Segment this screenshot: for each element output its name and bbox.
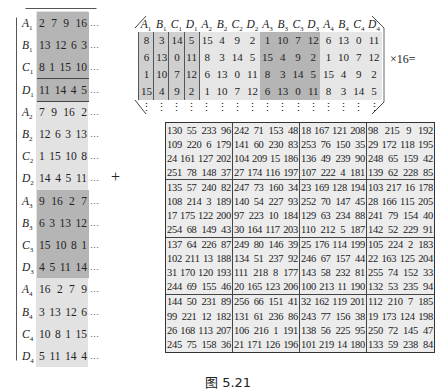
cell-value: 177 (283, 267, 298, 278)
ellipsis: … (90, 167, 99, 189)
cell-value: 91 (423, 224, 433, 235)
result-grid: 1305523396109220617924161127202251781483… (165, 122, 435, 353)
vertical-ellipsis: ⋮ (153, 100, 169, 118)
cell-value: 217 (386, 182, 401, 193)
column-label: A4 (320, 14, 336, 32)
cell-value: 12 (65, 301, 77, 323)
cell-value: 11 (60, 256, 71, 278)
cell-value: 1 (65, 323, 71, 345)
cell-value: 117 (265, 224, 279, 235)
cell-value: 6 (200, 66, 215, 83)
cell-value: 13 (39, 34, 51, 56)
matrix-row: C4108115… (16, 323, 108, 345)
cell-value: 129 (301, 210, 316, 221)
cell-value: 44 (355, 253, 365, 264)
cell-value: 193 (216, 267, 231, 278)
cell-value: 9 (39, 190, 45, 212)
cell-value: 196 (283, 339, 298, 350)
cell-value: 90 (355, 153, 365, 164)
row-values: 151081 (37, 234, 89, 256)
cell-value: 204 (418, 253, 433, 264)
cell-value: 187 (350, 224, 365, 235)
block-row: 9922112182 (167, 309, 231, 323)
matrix-column: D3122511⋮ (305, 14, 321, 118)
block-row: 2417915440 (368, 208, 433, 222)
cell-value: 182 (216, 311, 231, 322)
vertical-ellipsis: ⋮ (214, 100, 230, 118)
cell-value: 248 (368, 153, 383, 164)
cell-value: 192 (418, 125, 433, 136)
cell-value: 4 (55, 167, 61, 189)
matrix-row: D4511144… (16, 345, 108, 367)
cell-value: 132 (368, 281, 383, 292)
cell-value: 123 (265, 281, 280, 292)
matrix-row: B3631312… (16, 212, 108, 234)
matrix-row: D3451114… (16, 256, 108, 278)
cell-value: 114 (332, 239, 346, 250)
cell-value: 16 (51, 190, 63, 212)
cell-value: 111 (234, 267, 248, 278)
cell-value: 2 (408, 239, 413, 250)
block-row: 1355724082 (167, 180, 231, 194)
cell-value: 154 (403, 210, 418, 221)
cell-value: 120 (198, 267, 213, 278)
cell-value: 15 (49, 145, 61, 167)
cell-value: 0 (169, 49, 184, 66)
cell-value: 232 (335, 267, 350, 278)
cell-value: 128 (332, 182, 347, 193)
cell-value: 184 (283, 210, 298, 221)
cell-value: 31 (167, 267, 177, 278)
cell-value: 119 (332, 296, 346, 307)
cell-value: 73 (254, 182, 264, 193)
block-row: 10221113188 (167, 252, 231, 266)
result-block: 1052242183221631252042557415233132532359… (367, 238, 434, 295)
cell-value: 169 (314, 182, 329, 193)
cell-value: 15 (60, 56, 72, 78)
cell-value: 9 (169, 83, 184, 100)
cell-value: 8 (139, 32, 154, 49)
cell-value: 8 (260, 66, 276, 83)
cell-value: 162 (314, 296, 329, 307)
block-row: 21171126196 (234, 338, 298, 352)
row-values: 126313 (37, 123, 89, 145)
cell-value: 39 (288, 239, 298, 250)
cell-value: 7 (351, 49, 367, 66)
block-row: 2486515942 (368, 151, 433, 165)
block-row: 2477316034 (234, 180, 298, 194)
cell-value: 3 (275, 66, 291, 83)
cell-value: 67 (321, 253, 331, 264)
cell-value: 21 (234, 339, 244, 350)
cell-value: 69 (187, 281, 197, 292)
ellipsis: … (90, 256, 99, 278)
cell-value: 13 (154, 49, 169, 66)
cell-value: 163 (381, 253, 396, 264)
cell-value: 58 (321, 267, 331, 278)
cell-value: 14 (76, 256, 88, 278)
block-row: 32162119201 (301, 295, 365, 309)
cell-value: 11 (76, 167, 87, 189)
cell-value: 51 (254, 253, 264, 264)
cell-value: 139 (368, 167, 383, 178)
cell-value: 208 (350, 125, 365, 136)
block-row: 2498014639 (234, 238, 298, 252)
cell-value: 62 (388, 167, 398, 178)
cell-value: 14 (229, 49, 245, 66)
vertical-ellipsis: ⋮ (199, 100, 215, 118)
row-values: 631312 (37, 212, 89, 234)
block-row: 25176114199 (301, 238, 365, 252)
cell-value: 14 (39, 167, 51, 189)
cell-value: 216 (254, 325, 269, 336)
cell-value: 30 (234, 224, 244, 235)
cell-value: 13 (275, 83, 291, 100)
plus-operator: + (111, 168, 120, 186)
cell-value: 2 (244, 32, 260, 49)
matrix-column: A461158⋮ (320, 14, 336, 118)
cell-value: 3 (206, 196, 211, 207)
block-row: 1416023083 (234, 137, 298, 151)
cell-value: 56 (321, 325, 331, 336)
cell-value: 8 (320, 83, 336, 100)
cell-value: 12 (201, 311, 211, 322)
cell-value: 12 (55, 34, 67, 56)
result-block: 2427115348141602308310420915186271741161… (233, 123, 300, 180)
cell-value: 83 (288, 139, 298, 150)
